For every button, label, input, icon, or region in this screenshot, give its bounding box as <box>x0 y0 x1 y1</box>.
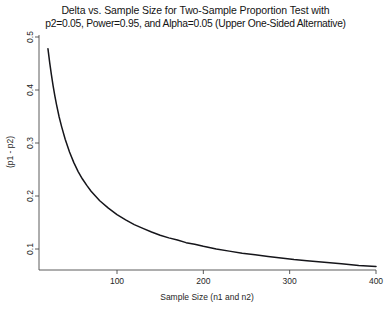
y-tick-label: 0.5 <box>25 31 35 43</box>
x-axis-label: Sample Size (n1 and n2) <box>160 292 254 302</box>
chart-figure: Delta vs. Sample Size for Two-Sample Pro… <box>0 0 391 316</box>
y-tick-label: 0.1 <box>25 243 35 255</box>
chart-series-group <box>48 49 376 267</box>
chart-plot-area: 0.10.20.30.40.5 100200300400 Sample Size… <box>0 0 391 316</box>
y-tick-label: 0.4 <box>25 84 35 96</box>
y-tick-label: 0.2 <box>25 190 35 202</box>
chart-axes <box>39 35 376 270</box>
x-tick-label: 100 <box>110 276 124 286</box>
y-axis-label: (p1 - p2) <box>5 136 15 168</box>
y-tick-label: 0.3 <box>25 137 35 149</box>
delta-curve <box>48 49 376 267</box>
x-tick-label: 300 <box>283 276 297 286</box>
x-tick-label: 200 <box>196 276 210 286</box>
y-axis-ticks: 0.10.20.30.40.5 <box>25 31 39 255</box>
x-tick-label: 400 <box>369 276 383 286</box>
x-axis-ticks: 100200300400 <box>110 270 383 286</box>
